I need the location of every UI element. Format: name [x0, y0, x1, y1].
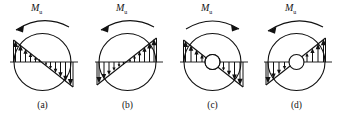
stress-arrows-right-b — [129, 39, 157, 62]
moment-arc-b — [101, 21, 154, 33]
stress-line-b — [97, 38, 157, 85]
moment-label-c: Mu — [201, 2, 212, 15]
panel-b-drawing — [85, 0, 170, 102]
moment-label-a: Mu — [31, 2, 42, 15]
panel-caption-b: (b) — [85, 99, 170, 111]
panel-caption-a: (a) — [0, 99, 85, 111]
panel-d-drawing — [254, 0, 339, 102]
moment-label-b: Mu — [116, 2, 127, 15]
panel-b: Mu — [85, 0, 170, 120]
moment-label-d: Mu — [285, 2, 296, 15]
panel-caption-c: (c) — [170, 99, 255, 111]
moment-arc-c — [186, 21, 239, 32]
panel-c-drawing — [170, 0, 255, 102]
moment-arc-a — [16, 21, 69, 33]
moment-arc-d — [268, 21, 323, 34]
stress-line-a — [14, 40, 74, 87]
panel-a: Mu — [0, 0, 85, 120]
stress-arrows-right-c — [222, 62, 243, 85]
circular-section-stress-distribution-figure: Mu — [0, 0, 339, 120]
panel-d: Mu — [254, 0, 339, 120]
panel-c: Mu — [170, 0, 255, 120]
panel-caption-d: (d) — [254, 99, 339, 111]
panel-a-drawing — [0, 0, 85, 102]
